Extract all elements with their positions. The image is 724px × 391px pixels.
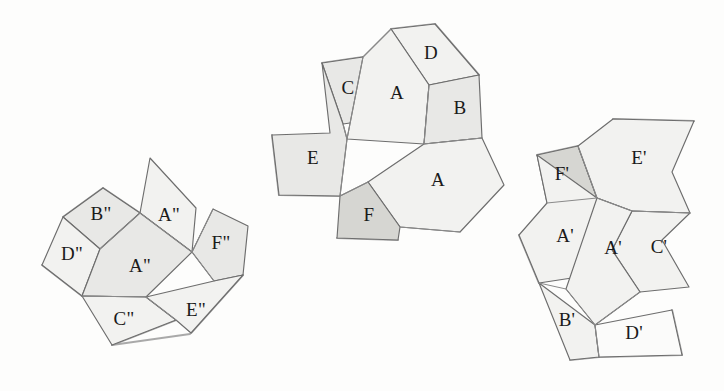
face-label: E — [307, 147, 319, 168]
figure-root: B"D"A"A"F"C"E"DCABEAFF'E'A'C'A'B'D' — [0, 0, 724, 391]
middle-net: DCABEAF — [272, 24, 504, 240]
right-net: F'E'A'C'A'B'D' — [519, 119, 694, 360]
face-label: A' — [556, 225, 574, 246]
face-label: C' — [651, 236, 668, 257]
face-label: A" — [129, 255, 151, 276]
face-label: F — [364, 204, 375, 225]
face-label: B" — [90, 203, 111, 224]
face-label: A — [390, 82, 404, 103]
face-label: D — [424, 42, 438, 63]
face-label: A — [431, 169, 445, 190]
face-label: E' — [631, 147, 647, 168]
face-label: F' — [555, 163, 570, 184]
face-label: F" — [212, 232, 231, 253]
face-label: C" — [113, 308, 134, 329]
face-label: D' — [625, 322, 643, 343]
face-label: E" — [186, 299, 206, 320]
face-label: B — [454, 97, 467, 118]
face-label: B' — [559, 309, 576, 330]
face-label: D" — [61, 243, 83, 264]
polyhedron-nets-diagram: B"D"A"A"F"C"E"DCABEAFF'E'A'C'A'B'D' — [0, 0, 724, 391]
face-label: A" — [158, 204, 180, 225]
left-net: B"D"A"A"F"C"E" — [42, 158, 248, 345]
face-label: A' — [604, 237, 622, 258]
face-label: C — [342, 77, 355, 98]
